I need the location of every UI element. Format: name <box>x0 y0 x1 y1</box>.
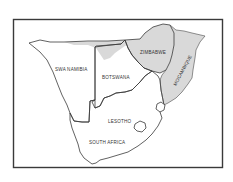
label-botswana: BOTSWANA <box>102 75 130 80</box>
label-south-africa: SOUTH AFRICA <box>89 140 126 145</box>
label-swa-namibia: SWA NAMIBIA <box>55 67 88 72</box>
label-lesotho: LESOTHO <box>108 119 132 124</box>
swaziland-region <box>156 102 165 112</box>
map-figure: SWA NAMIBIA BOTSWANA ZIMBABWE MOCAMBIQUE… <box>0 0 233 182</box>
southern-africa-map: SWA NAMIBIA BOTSWANA ZIMBABWE MOCAMBIQUE… <box>0 0 233 182</box>
label-zimbabwe: ZIMBABWE <box>140 50 166 55</box>
